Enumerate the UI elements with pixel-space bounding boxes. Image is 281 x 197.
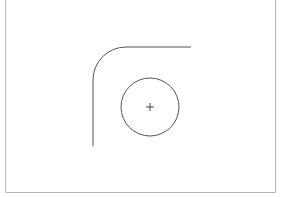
diagram-canvas — [0, 0, 281, 197]
center-crosshair-icon — [146, 103, 154, 111]
rounded-corner-curve — [93, 47, 191, 146]
frame-border — [6, 0, 276, 193]
